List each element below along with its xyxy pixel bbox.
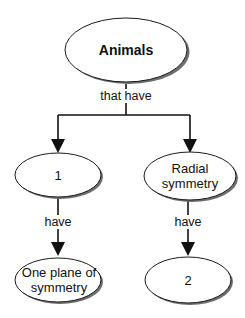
arrow-down-icon: [183, 139, 197, 153]
node-right-mid-label: Radial symmetry: [162, 161, 218, 191]
link-label-that-have: that have: [99, 89, 152, 103]
node-root-label: Animals: [99, 43, 153, 58]
node-left-mid-label: 1: [54, 168, 61, 183]
node-left-bottom-label: One plane of symmetry: [22, 265, 96, 295]
link-label-left-have: have: [43, 215, 72, 229]
node-right-bottom-label: 2: [184, 273, 191, 288]
arrow-down-icon: [181, 242, 195, 256]
node-left-bottom-line1: One plane of: [22, 265, 96, 280]
node-left-bottom-line2: symmetry: [22, 280, 96, 295]
arrow-down-icon: [51, 139, 65, 153]
arrow-down-icon: [51, 242, 65, 256]
link-label-right-have: have: [173, 215, 202, 229]
node-right-mid-line2: symmetry: [162, 176, 218, 191]
node-right-mid-line1: Radial: [162, 161, 218, 176]
